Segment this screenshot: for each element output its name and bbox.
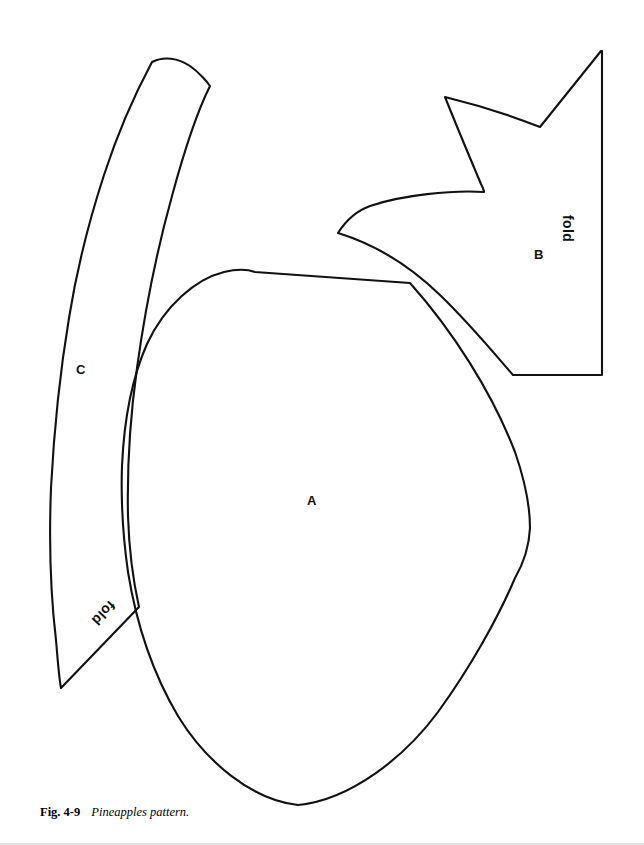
caption-text: Pineapples pattern. xyxy=(91,805,189,819)
caption-number: Fig. 4-9 xyxy=(40,805,80,819)
pattern-diagram xyxy=(0,0,644,845)
figure-page: A B C fold fold Fig. 4-9Pineapples patte… xyxy=(0,0,644,845)
fold-label-piece-b: fold xyxy=(561,215,575,242)
piece-label-a: A xyxy=(307,494,317,507)
piece-label-b: B xyxy=(534,248,544,261)
figure-caption: Fig. 4-9Pineapples pattern. xyxy=(40,805,600,820)
piece-b-outline xyxy=(338,51,602,375)
piece-label-c: C xyxy=(76,363,86,376)
piece-c-outline xyxy=(50,59,210,688)
piece-a-outline xyxy=(122,270,530,805)
